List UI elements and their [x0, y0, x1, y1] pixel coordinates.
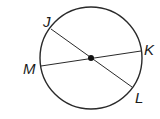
circle-diagram: J K M L	[0, 0, 160, 119]
label-m: M	[23, 60, 36, 77]
center-point	[88, 55, 94, 61]
label-j: J	[42, 13, 51, 30]
label-l: L	[135, 89, 143, 106]
label-k: K	[144, 41, 155, 58]
